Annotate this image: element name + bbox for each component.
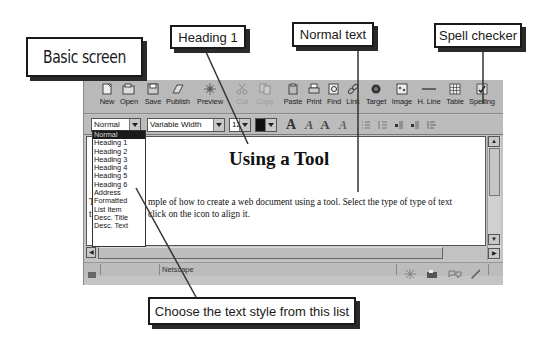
scroll-down-button[interactable]: ▼	[488, 234, 500, 245]
bold-button[interactable]: A	[284, 117, 298, 133]
callout-label: Heading 1	[178, 30, 237, 45]
bullet-list-button[interactable]	[360, 117, 372, 133]
new-document-icon	[100, 83, 114, 95]
chevron-down-icon[interactable]	[213, 119, 224, 131]
document-line-1: mple of how to create a web document usi…	[148, 197, 452, 207]
editor-window: New Open Save Publish Preview Cut Copy	[83, 80, 503, 285]
preview-button[interactable]: Preview	[195, 82, 225, 112]
main-toolbar: New Open Save Publish Preview Cut Copy	[84, 80, 503, 114]
copy-icon	[258, 83, 272, 95]
vertical-scrollbar[interactable]: ▲ ▼ ▶	[487, 136, 501, 260]
target-button[interactable]: Target	[364, 82, 388, 112]
table-button[interactable]: Table	[444, 82, 466, 112]
horizontal-line-icon	[422, 83, 436, 95]
publish-button[interactable]: Publish	[164, 82, 192, 112]
numbered-list-button[interactable]	[377, 117, 389, 133]
document-heading: Using a Tool	[229, 148, 329, 170]
find-icon	[327, 83, 341, 95]
callout-label: Spell checker	[439, 28, 517, 43]
callout-heading-1: Heading 1	[170, 25, 246, 49]
navigator-component-icon[interactable]	[404, 265, 416, 283]
save-button[interactable]: Save	[142, 82, 164, 112]
table-icon	[448, 83, 462, 95]
target-icon	[369, 83, 383, 95]
new-button[interactable]: New	[96, 82, 118, 112]
paragraph-style-dropdown: Normal Heading 1 Heading 2 Heading 3 Hea…	[92, 130, 146, 247]
font-face-select[interactable]: Variable Width	[147, 118, 225, 132]
cut-icon	[235, 83, 249, 95]
callout-basic-screen: Basic screen	[26, 37, 143, 77]
numbered-list-icon	[378, 116, 388, 134]
vertical-scroll-thumb[interactable]	[489, 148, 500, 196]
spelling-icon	[475, 83, 489, 95]
scroll-left-button[interactable]: ◀	[86, 247, 96, 258]
horizontal-scrollbar[interactable]: ◀	[86, 247, 486, 260]
text-color-select[interactable]	[255, 118, 277, 132]
print-icon	[307, 83, 321, 95]
cut-button[interactable]: Cut	[232, 82, 252, 112]
scroll-up-button[interactable]: ▲	[488, 136, 500, 147]
link-button[interactable]: Link	[344, 82, 362, 112]
open-button[interactable]: Open	[118, 82, 140, 112]
style-option-desc-text[interactable]: Desc. Text	[93, 222, 145, 230]
increase-indent-icon	[410, 116, 420, 134]
document-line-2: click on the icon to align it.	[148, 209, 250, 219]
decrease-indent-icon	[394, 116, 404, 134]
discussion-component-icon[interactable]	[448, 265, 462, 283]
composer-component-icon[interactable]	[470, 265, 482, 283]
callout-label: Choose the text style from this list	[155, 304, 349, 319]
callout-choose-style: Choose the text style from this list	[148, 297, 356, 325]
status-text: Netscape	[162, 265, 194, 274]
security-lock-icon	[87, 265, 97, 283]
image-icon	[395, 83, 409, 95]
copy-button[interactable]: Copy	[254, 82, 276, 112]
scroll-right-button[interactable]: ▶	[488, 248, 500, 259]
mail-component-icon[interactable]	[426, 265, 440, 283]
paste-icon	[286, 83, 300, 95]
fixed-width-button[interactable]: A	[318, 117, 332, 133]
link-icon	[346, 83, 360, 95]
decrease-indent-button[interactable]	[393, 117, 405, 133]
find-button[interactable]: Find	[324, 82, 344, 112]
document-editor[interactable]: Using a Tool T mple of how to create a w…	[86, 136, 486, 246]
bullet-list-icon	[361, 116, 371, 134]
paste-button[interactable]: Paste	[282, 82, 304, 112]
spelling-button[interactable]: Spelling	[467, 82, 497, 112]
italic-button[interactable]: A	[302, 117, 316, 133]
open-folder-icon	[122, 83, 136, 95]
status-bar: Netscape	[84, 262, 503, 276]
font-size-select[interactable]: 12	[229, 118, 251, 132]
increase-indent-button[interactable]	[409, 117, 421, 133]
clear-styles-button[interactable]: A	[336, 117, 350, 133]
callout-label: Normal text	[300, 27, 366, 42]
align-icon	[427, 116, 437, 134]
horizontal-line-button[interactable]: H. Line	[416, 82, 442, 112]
publish-icon	[171, 83, 185, 95]
print-button[interactable]: Print	[304, 82, 324, 112]
callout-label: Basic screen	[43, 47, 126, 67]
callout-normal-text: Normal text	[292, 22, 374, 47]
align-button[interactable]	[426, 117, 438, 133]
chevron-down-icon[interactable]	[265, 119, 276, 131]
preview-icon	[203, 83, 217, 95]
chevron-down-icon[interactable]	[239, 119, 250, 131]
format-toolbar: Normal Variable Width 12 A A A A	[84, 115, 503, 135]
image-button[interactable]: Image	[390, 82, 414, 112]
callout-spell-checker: Spell checker	[434, 23, 522, 48]
horizontal-scroll-thumb[interactable]	[98, 247, 443, 259]
save-disk-icon	[146, 83, 160, 95]
